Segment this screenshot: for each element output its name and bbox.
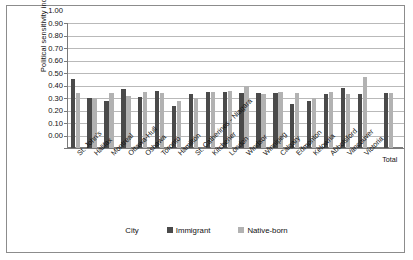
bar-group — [69, 23, 86, 148]
y-axis-tick-label: 0.90 — [37, 20, 63, 28]
bar-group — [86, 23, 103, 148]
bar-group — [382, 23, 399, 148]
x-axis-tick-labels: St. John'sHalifaxMontrealOttawa-HullOsha… — [67, 149, 407, 201]
bar-immigrant[interactable] — [71, 79, 75, 148]
bar-group — [170, 23, 187, 148]
chart-frame: Political sensitivity index 1.000.900.80… — [6, 5, 405, 253]
legend-item-native-born[interactable]: Native-born — [238, 226, 287, 235]
legend-swatch-immigrant — [167, 227, 173, 233]
legend-row: City Immigrant Native-born — [7, 222, 406, 238]
y-axis-tick-label: 1.00 — [37, 7, 63, 15]
y-axis-tick-label: 0.10 — [37, 120, 63, 128]
y-axis-tick-label: 0.20 — [37, 107, 63, 115]
legend-item-immigrant[interactable]: Immigrant — [167, 226, 211, 235]
y-axis-tick-label: 0.40 — [37, 82, 63, 90]
y-axis-tick-label: 0.50 — [37, 70, 63, 78]
bar-group — [288, 23, 305, 148]
y-axis-tick-label: 0.00 — [37, 132, 63, 140]
bar-group — [272, 23, 289, 148]
y-axis-tick-label: 0.80 — [37, 32, 63, 40]
legend-swatch-native-born — [238, 227, 244, 233]
x-axis-title: City — [125, 226, 138, 235]
y-axis-tick-labels: 1.000.900.800.700.600.500.400.300.200.10… — [33, 11, 63, 136]
bar-group — [187, 23, 204, 148]
bar-group — [120, 23, 137, 148]
bar-group — [103, 23, 120, 148]
legend-label-immigrant: Immigrant — [176, 226, 211, 235]
legend-label-native-born: Native-born — [247, 226, 287, 235]
x-axis-tick-label: Total — [382, 155, 397, 164]
bar-native-born[interactable] — [76, 93, 80, 148]
bar-native-born[interactable] — [389, 93, 393, 148]
bar-group — [238, 23, 255, 148]
y-axis-tick-label: 0.70 — [37, 45, 63, 53]
y-axis-tick-label: 0.30 — [37, 95, 63, 103]
bar-group — [255, 23, 272, 148]
bar-group — [322, 23, 339, 148]
y-axis-tick-label: 0.60 — [37, 57, 63, 65]
